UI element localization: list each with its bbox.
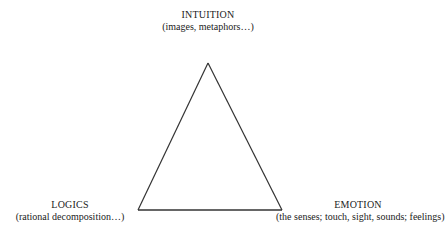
- vertex-label-logics: LOGICS (rational decomposition…): [0, 199, 140, 223]
- logics-title: LOGICS: [0, 199, 140, 211]
- vertex-label-emotion: EMOTION (the senses; touch, sight, sound…: [276, 199, 440, 223]
- emotion-subtitle: (the senses; touch, sight, sounds; feeli…: [276, 211, 440, 223]
- triangle-edge-right: [208, 63, 282, 210]
- intuition-title: INTUITION: [158, 9, 258, 21]
- vertex-label-intuition: INTUITION (images, metaphors…): [158, 9, 258, 33]
- intuition-subtitle: (images, metaphors…): [158, 21, 258, 33]
- logics-subtitle: (rational decomposition…): [0, 211, 140, 223]
- triangle-edge-left: [138, 63, 208, 210]
- emotion-title: EMOTION: [276, 199, 440, 211]
- diagram-canvas: INTUITION (images, metaphors…) LOGICS (r…: [0, 0, 446, 233]
